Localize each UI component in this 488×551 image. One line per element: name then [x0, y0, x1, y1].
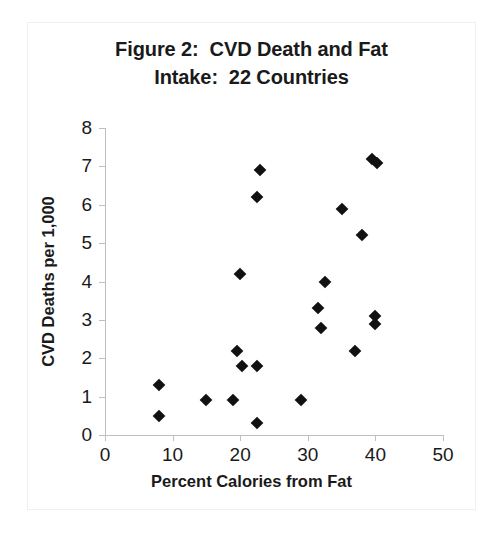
x-tick-label: 40 [353, 444, 397, 466]
y-tick-label-wrap: 4 [58, 271, 92, 291]
x-tick-0 [105, 435, 106, 441]
x-tick-label: 0 [83, 444, 127, 466]
data-point [200, 394, 213, 407]
y-tick-label-wrap: 0 [58, 424, 92, 444]
data-point [254, 164, 267, 177]
chart-title-line-1: Figure 2: CVD Death and Fat [27, 36, 476, 64]
x-tick-label: 30 [286, 444, 330, 466]
data-point [251, 417, 264, 430]
y-tick-label: 4 [58, 271, 92, 293]
x-tick-label-wrap: 0 [83, 444, 127, 468]
x-tick-40 [375, 435, 376, 441]
y-tick-label: 1 [58, 386, 92, 408]
x-tick-label-wrap: 10 [151, 444, 195, 468]
y-tick-label-wrap: 7 [58, 155, 92, 175]
y-tick-label-wrap: 8 [58, 117, 92, 137]
y-tick-label: 3 [58, 309, 92, 331]
y-tick-label: 8 [58, 117, 92, 139]
data-point [234, 267, 247, 280]
data-point [251, 360, 264, 373]
x-tick-label-wrap: 50 [421, 444, 465, 468]
plot-area [105, 128, 443, 435]
x-tick-20 [240, 435, 241, 441]
x-tick-label-wrap: 30 [286, 444, 330, 468]
x-tick-10 [173, 435, 174, 441]
data-point [227, 394, 240, 407]
y-tick-label-wrap: 2 [58, 347, 92, 367]
chart-title: Figure 2: CVD Death and Fat Intake: 22 C… [27, 36, 476, 91]
data-point [235, 360, 248, 373]
x-tick-50 [443, 435, 444, 441]
x-tick-label: 20 [218, 444, 262, 466]
data-point [312, 302, 325, 315]
data-point [315, 321, 328, 334]
x-tick-30 [308, 435, 309, 441]
data-point [230, 344, 243, 357]
y-tick-label: 7 [58, 155, 92, 177]
x-tick-label-wrap: 20 [218, 444, 262, 468]
y-tick-label-wrap: 5 [58, 232, 92, 252]
x-tick-label: 10 [151, 444, 195, 466]
data-point [153, 409, 166, 422]
y-tick-label: 5 [58, 232, 92, 254]
data-point [335, 202, 348, 215]
data-point [356, 229, 369, 242]
y-tick-label: 2 [58, 347, 92, 369]
figure-root: Figure 2: CVD Death and Fat Intake: 22 C… [0, 0, 488, 551]
y-tick-label: 0 [58, 424, 92, 446]
data-point [153, 379, 166, 392]
x-tick-label-wrap: 40 [353, 444, 397, 468]
chart-title-line-2: Intake: 22 Countries [27, 64, 476, 92]
data-point [349, 344, 362, 357]
data-point [318, 275, 331, 288]
x-axis-title: Percent Calories from Fat [27, 472, 476, 491]
x-axis-line [105, 435, 444, 436]
y-tick-label-wrap: 6 [58, 194, 92, 214]
y-tick-label: 6 [58, 194, 92, 216]
x-tick-label: 50 [421, 444, 465, 466]
data-point [251, 191, 264, 204]
y-tick-label-wrap: 3 [58, 309, 92, 329]
data-point [295, 394, 308, 407]
y-tick-label-wrap: 1 [58, 386, 92, 406]
y-axis-title: CVD Deaths per 1,000 [39, 157, 58, 407]
